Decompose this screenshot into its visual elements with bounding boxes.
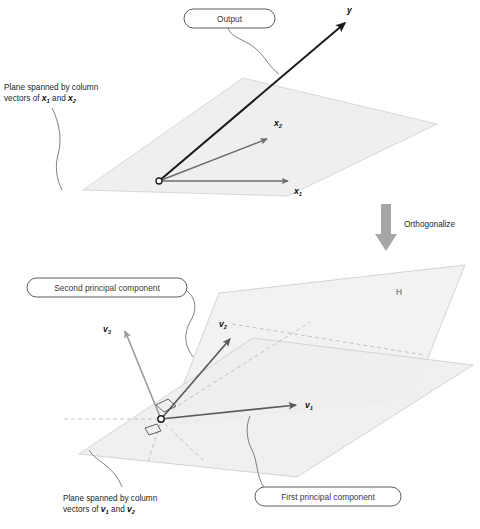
origin-point-top bbox=[156, 178, 162, 184]
label-plane-v-mid: and bbox=[109, 505, 127, 514]
callout-second-principal-component[interactable]: Second principal component bbox=[27, 278, 187, 297]
label-plane-x-mid: and bbox=[50, 94, 68, 103]
label-plane-x-line2: vectors of x1 and x2 bbox=[4, 93, 77, 104]
label-plane-x-line1: Plane spanned by column bbox=[4, 83, 99, 92]
label-plane-x-prefix: vectors of bbox=[4, 94, 42, 103]
callout-first-label: First principal component bbox=[281, 492, 375, 502]
orthogonalize-label: Orthogonalize bbox=[404, 220, 455, 229]
callout-second-label: Second principal component bbox=[54, 283, 160, 293]
vector-label-x1-sub: 1 bbox=[299, 191, 302, 197]
callout-output[interactable]: Output bbox=[184, 9, 275, 28]
pca-orthogonalization-diagram: Output Plane spanned by column vectors o… bbox=[0, 0, 480, 529]
hyperplane-label-H: H bbox=[396, 287, 402, 297]
vector-label-v1-sub: 1 bbox=[310, 405, 313, 411]
label-plane-v-line1: Plane spanned by column bbox=[63, 494, 158, 503]
callout-output-label: Output bbox=[217, 14, 243, 24]
label-plane-v-line2: vectors of v1 and v2 bbox=[63, 504, 136, 515]
label-plane-v-prefix: vectors of bbox=[63, 505, 101, 514]
origin-point-bottom bbox=[158, 416, 164, 422]
callout-first-principal-component[interactable]: First principal component bbox=[255, 487, 401, 506]
